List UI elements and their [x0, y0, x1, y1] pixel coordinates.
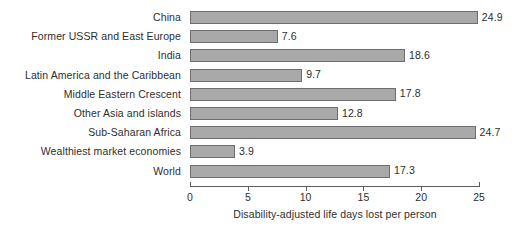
category-label: India — [158, 50, 181, 61]
plot-area: 24.97.618.69.717.812.824.73.917.3 — [190, 0, 480, 186]
bar-row: 3.9 — [190, 145, 479, 158]
category-label: Wealthiest market economies — [41, 146, 181, 157]
category-label: China — [153, 12, 181, 23]
category-axis-labels: ChinaFormer USSR and East EuropeIndiaLat… — [0, 0, 186, 186]
category-label: Latin America and the Caribbean — [25, 70, 181, 81]
x-axis-tick-label: 10 — [300, 191, 312, 203]
x-axis-tick-label: 0 — [187, 191, 193, 203]
x-axis-left-cap — [190, 182, 191, 187]
bar — [190, 165, 390, 178]
category-label: World — [153, 166, 181, 177]
category-label: Former USSR and East Europe — [31, 31, 181, 42]
bar-value-label: 17.3 — [394, 164, 415, 177]
bar-row: 24.7 — [190, 126, 479, 139]
x-axis-tick-label: 15 — [358, 191, 370, 203]
bar — [190, 88, 396, 101]
x-axis-line — [190, 186, 479, 187]
bar — [190, 107, 338, 120]
bar-value-label: 17.8 — [400, 87, 421, 100]
bar-row: 9.7 — [190, 69, 479, 82]
bar-row: 24.9 — [190, 11, 479, 24]
bar — [190, 145, 235, 158]
bar-value-label: 24.7 — [480, 126, 501, 139]
bar-value-label: 7.6 — [282, 30, 297, 43]
category-label: Other Asia and islands — [74, 108, 181, 119]
bar — [190, 11, 478, 24]
x-axis-tick-label: 25 — [473, 191, 485, 203]
bar — [190, 30, 278, 43]
bar-row: 17.3 — [190, 165, 479, 178]
bar-value-label: 12.8 — [342, 107, 363, 120]
bar-value-label: 3.9 — [239, 145, 254, 158]
bar-row: 17.8 — [190, 88, 479, 101]
x-axis-title: Disability-adjusted life days lost per p… — [190, 208, 480, 220]
bar — [190, 69, 302, 82]
category-label: Sub-Saharan Africa — [88, 127, 181, 138]
bar-value-label: 24.9 — [482, 11, 503, 24]
bar-row: 18.6 — [190, 49, 479, 62]
bar-value-label: 9.7 — [306, 68, 321, 81]
bar-value-label: 18.6 — [409, 49, 430, 62]
bar-chart: ChinaFormer USSR and East EuropeIndiaLat… — [0, 0, 516, 239]
bar — [190, 49, 405, 62]
x-axis-right-cap — [479, 182, 480, 187]
category-label: Middle Eastern Crescent — [64, 89, 181, 100]
x-axis-tick-label: 20 — [415, 191, 427, 203]
bar — [190, 126, 476, 139]
x-axis-tick-label: 5 — [245, 191, 251, 203]
bar-row: 12.8 — [190, 107, 479, 120]
bar-row: 7.6 — [190, 30, 479, 43]
